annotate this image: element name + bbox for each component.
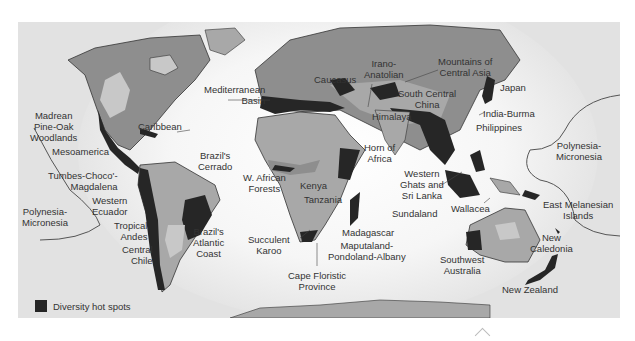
label-wallacea: Wallacea bbox=[451, 203, 490, 214]
label-japan: Japan bbox=[500, 82, 526, 93]
label-madrean-pine-oak-woodlands: Madrean Pine-Oak Woodlands bbox=[30, 110, 77, 143]
label-tropical-andes: Tropical Andes bbox=[114, 220, 147, 242]
label-new-caledonia: New Caledonia bbox=[530, 232, 573, 254]
label-maputaland-pondoland-albany: Maputaland- Pondoland-Albany bbox=[328, 240, 406, 262]
label-mesoamerica: Mesoamerica bbox=[52, 146, 109, 157]
label-tanzania: Tanzania bbox=[304, 194, 342, 205]
label-india-burma: India-Burma bbox=[483, 108, 535, 119]
label-succulent-karoo: Succulent Karoo bbox=[248, 234, 290, 256]
label-western-ghats-sri-lanka: Western Ghats and Sri Lanka bbox=[400, 168, 444, 201]
label-caucasus: Caucasus bbox=[314, 74, 356, 85]
label-new-zealand: New Zealand bbox=[502, 284, 558, 295]
label-brazil-atlantic-coast: Brazil's Atlantic Coast bbox=[193, 226, 224, 259]
label-polynesia-micronesia-east: Polynesia- Micronesia bbox=[556, 140, 602, 162]
label-tumbes-choco-magdalena: Tumbes-Choco'- Magdalena bbox=[48, 170, 118, 192]
label-himalaya: Himalaya bbox=[372, 111, 412, 122]
label-philippines: Philippines bbox=[476, 122, 522, 133]
label-cape-floristic-province: Cape Floristic Province bbox=[288, 270, 346, 292]
label-southwest-australia: Southwest Australia bbox=[440, 254, 484, 276]
diamond-marker-icon bbox=[475, 328, 491, 341]
label-mountains-of-central-asia: Mountains of Central Asia bbox=[438, 56, 492, 78]
label-polynesia-micronesia-west: Polynesia- Micronesia bbox=[22, 206, 68, 228]
label-w-african-forests: W. African Forests bbox=[243, 172, 286, 194]
legend-label: Diversity hot spots bbox=[53, 301, 131, 312]
label-mediterranean-basin: Mediterranean Basin bbox=[204, 84, 265, 106]
label-sundaland: Sundaland bbox=[392, 208, 437, 219]
legend: Diversity hot spots bbox=[35, 300, 131, 312]
label-western-ecuador: Western Ecuador bbox=[92, 195, 127, 217]
label-caribbean: Caribbean bbox=[138, 121, 182, 132]
label-brazil-cerrado: Brazil's Cerrado bbox=[198, 150, 232, 172]
label-madagascar: Madagascar bbox=[342, 227, 394, 238]
hotspot-swatch bbox=[35, 300, 47, 312]
label-south-central-china: South Central China bbox=[398, 88, 456, 110]
label-east-melanesian-islands: East Melanesian Islands bbox=[543, 199, 613, 221]
label-irano-anatolian: Irano- Anatolian bbox=[364, 58, 404, 80]
label-horn-of-africa: Horn of Africa bbox=[364, 142, 395, 164]
label-central-chile: Central Chile bbox=[122, 244, 153, 266]
label-kenya: Kenya bbox=[300, 180, 327, 191]
